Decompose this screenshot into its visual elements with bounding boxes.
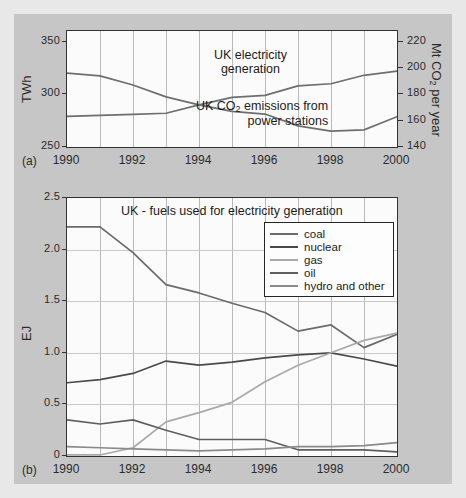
legend-item[interactable]: oil <box>270 266 387 279</box>
y-tick-label: 1.5 <box>26 293 60 305</box>
x-tick-label: 1994 <box>173 462 223 476</box>
legend-swatch-nuclear <box>270 246 298 248</box>
chart-title: UK - fuels used for electricity generati… <box>121 204 343 218</box>
panel-letter: (b) <box>22 463 37 477</box>
y-tick-label: 1.0 <box>26 345 60 357</box>
series-line-gas <box>67 333 397 455</box>
legend-item[interactable]: hydro and other <box>270 279 387 292</box>
legend-label: gas <box>304 254 323 266</box>
series-line-nuclear <box>67 353 397 383</box>
legend-swatch-oil <box>270 272 298 274</box>
y-tick-mark <box>62 403 67 404</box>
figure-root: 2503003501401601802002201990199219941996… <box>0 0 466 498</box>
legend-item[interactable]: nuclear <box>270 240 387 253</box>
y-tick-mark <box>62 300 67 301</box>
y-axis-label: EJ <box>19 326 34 341</box>
chart-b-container: 00.51.01.52.02.5199019921994199619982000… <box>0 0 466 498</box>
legend-swatch-coal <box>270 233 298 235</box>
x-tick-label: 1992 <box>107 462 157 476</box>
y-tick-mark <box>62 249 67 250</box>
y-tick-label: 2.0 <box>26 242 60 254</box>
x-tick-label: 2000 <box>371 462 421 476</box>
y-tick-mark <box>62 455 67 456</box>
x-tick-label: 1990 <box>41 462 91 476</box>
legend-item[interactable]: coal <box>270 227 387 240</box>
y-tick-label: 0.5 <box>26 396 60 408</box>
legend-swatch-gas <box>270 259 298 261</box>
y-tick-label: 0 <box>26 448 60 460</box>
x-tick-label: 1996 <box>239 462 289 476</box>
x-tick-label: 1998 <box>305 462 355 476</box>
y-tick-label: 2.5 <box>26 190 60 202</box>
series-line-oil <box>67 420 397 452</box>
legend-swatch-hydro-and-other <box>270 285 298 287</box>
legend-label: hydro and other <box>304 280 385 292</box>
legend-label: nuclear <box>304 241 342 253</box>
chart-legend: coalnucleargasoilhydro and other <box>264 222 394 297</box>
y-tick-mark <box>62 352 67 353</box>
y-tick-mark <box>62 197 67 198</box>
legend-item[interactable]: gas <box>270 253 387 266</box>
legend-label: coal <box>304 228 325 240</box>
legend-label: oil <box>304 267 316 279</box>
